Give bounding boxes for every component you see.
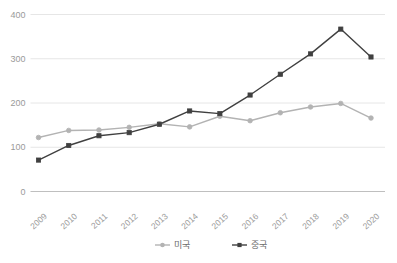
data-point-marker: [36, 135, 41, 140]
legend-label: 중국: [251, 240, 267, 250]
x-axis-tick-label: 2010: [58, 211, 79, 231]
data-point-marker: [339, 27, 343, 31]
data-point-marker: [36, 158, 40, 162]
data-point-marker: [187, 125, 192, 130]
legend-marker: [237, 243, 241, 247]
chart-canvas: 0100200300400 20092010201120122013201420…: [0, 0, 397, 263]
data-point-marker: [248, 118, 253, 123]
y-axis-tick-label: 400: [10, 10, 25, 20]
data-point-marker: [369, 55, 373, 59]
data-point-marker: [369, 116, 374, 121]
x-axis-tick-label: 2020: [361, 211, 382, 231]
x-axis-tick-labels: 2009201020112012201320142015201620172018…: [28, 211, 381, 231]
x-axis-tick-label: 2013: [149, 211, 170, 231]
data-point-marker: [278, 72, 282, 76]
x-axis-tick-label: 2014: [179, 211, 200, 231]
data-point-marker: [308, 105, 313, 110]
y-axis-tick-label: 200: [10, 98, 25, 108]
x-axis-tick-label: 2019: [330, 211, 351, 231]
data-point-marker: [218, 112, 222, 116]
x-axis-tick-label: 2017: [270, 211, 291, 231]
legend-label: 미국: [174, 240, 190, 250]
x-axis-tick-label: 2011: [89, 211, 109, 231]
data-point-marker: [127, 125, 132, 130]
series-line-usa: [39, 103, 372, 137]
x-axis-tick-label: 2009: [28, 211, 49, 231]
chart-legend: 미국중국: [155, 240, 267, 250]
data-point-marker: [338, 101, 343, 106]
data-point-marker: [66, 128, 71, 133]
series-markers: [36, 27, 373, 162]
series-line-china: [39, 29, 372, 160]
line-chart: 0100200300400 20092010201120122013201420…: [0, 0, 397, 263]
y-axis-tick-label: 300: [10, 54, 25, 64]
x-axis-tick-label: 2018: [300, 211, 321, 231]
gridlines: [31, 15, 386, 192]
data-point-marker: [97, 128, 102, 133]
x-axis-tick-label: 2012: [119, 211, 140, 231]
legend-marker: [160, 243, 165, 248]
data-point-marker: [278, 110, 283, 115]
data-point-marker: [157, 122, 161, 126]
plot-area: 0100200300400 20092010201120122013201420…: [0, 0, 397, 263]
y-axis-tick-label: 100: [10, 142, 25, 152]
data-point-marker: [248, 93, 252, 97]
series-lines: [39, 29, 372, 160]
y-axis-tick-label: 0: [20, 187, 25, 197]
data-point-marker: [308, 52, 312, 56]
data-point-marker: [127, 131, 131, 135]
x-axis-tick-label: 2016: [240, 211, 261, 231]
data-point-marker: [67, 143, 71, 147]
data-point-marker: [188, 109, 192, 113]
x-axis-tick-label: 2015: [209, 211, 230, 231]
data-point-marker: [97, 134, 101, 138]
y-axis-tick-labels: 0100200300400: [10, 10, 25, 197]
